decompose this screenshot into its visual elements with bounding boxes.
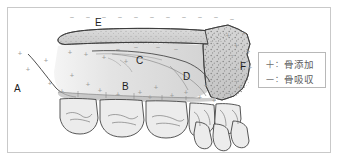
plus-marker: +	[70, 71, 75, 80]
minus-marker: −	[134, 43, 139, 52]
plus-marker: +	[212, 96, 217, 105]
plus-icon: ＋	[264, 56, 275, 71]
minus-marker: −	[118, 13, 123, 22]
minus-marker: −	[230, 51, 235, 60]
minus-marker: −	[166, 13, 171, 22]
plus-marker: +	[204, 81, 209, 90]
minus-marker: −	[230, 15, 235, 24]
plus-marker: +	[84, 50, 89, 59]
minus-marker: −	[116, 45, 121, 54]
tooth-3	[146, 101, 188, 138]
tooth-1	[60, 98, 98, 134]
plus-marker: +	[44, 56, 49, 65]
legend-separator: ：	[275, 58, 283, 69]
plus-marker: +	[86, 80, 91, 89]
plus-marker: +	[246, 47, 251, 56]
tooth-2	[100, 99, 144, 137]
minus-marker: −	[150, 13, 155, 22]
plus-marker: +	[248, 63, 253, 72]
plus-marker: +	[124, 57, 129, 66]
minus-marker: −	[134, 13, 139, 22]
minus-marker: −	[214, 13, 219, 22]
region-label-e: E	[95, 18, 102, 28]
minus-marker: −	[70, 13, 75, 22]
plus-marker: +	[184, 88, 189, 97]
plus-marker: +	[154, 83, 159, 92]
minus-marker: −	[234, 77, 239, 86]
region-label-c: C	[136, 56, 143, 66]
minus-marker: −	[174, 45, 179, 54]
figure-root: +++++++++++++++++++++++++++ −−−−−−−−−−−−…	[0, 0, 340, 162]
minus-icon: －	[264, 71, 275, 86]
minus-marker: −	[198, 13, 203, 22]
plus-marker: +	[68, 48, 73, 57]
plus-marker: +	[26, 65, 31, 74]
region-label-d: D	[183, 72, 190, 82]
legend-label-resorption: 骨吸収	[284, 72, 314, 86]
tooth-root-3	[231, 121, 249, 148]
legend-row-apposition: ＋ ： 骨添加	[264, 56, 321, 71]
plus-marker: +	[234, 41, 239, 50]
region-label-b: B	[122, 82, 129, 92]
plus-marker: +	[18, 49, 23, 58]
legend-separator: ：	[275, 73, 283, 84]
region-label-a: A	[14, 84, 21, 94]
plus-marker: +	[116, 90, 121, 99]
minus-marker: −	[232, 65, 237, 74]
minus-marker: −	[156, 43, 161, 52]
legend-row-resorption: － ： 骨吸収	[264, 71, 321, 86]
plus-marker: +	[98, 86, 103, 95]
plus-marker: +	[198, 93, 203, 102]
plus-marker: +	[138, 88, 143, 97]
teeth-row	[60, 98, 249, 150]
legend-box: ＋ ： 骨添加 － ： 骨吸収	[258, 52, 326, 88]
plus-marker: +	[48, 79, 53, 88]
plus-marker: +	[60, 87, 65, 96]
minus-marker: −	[226, 89, 231, 98]
plus-marker: +	[102, 53, 107, 62]
minus-marker: −	[182, 13, 187, 22]
plus-marker: +	[170, 91, 175, 100]
legend-label-apposition: 骨添加	[284, 57, 314, 71]
minus-marker: −	[102, 13, 107, 22]
plus-marker: +	[148, 93, 153, 102]
plus-marker: +	[238, 83, 243, 92]
minus-marker: −	[86, 13, 91, 22]
plus-marker: +	[226, 31, 231, 40]
plus-marker: +	[242, 29, 247, 38]
region-label-f: F	[240, 62, 246, 72]
